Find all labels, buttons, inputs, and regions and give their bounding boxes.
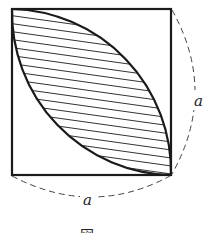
- lower-arc: [12, 9, 171, 175]
- side-label-bottom: a: [83, 191, 92, 209]
- figure-caption: 図: [80, 227, 94, 233]
- dimension-arc-right: [172, 10, 195, 174]
- square-outline: [12, 9, 171, 175]
- upper-arc: [12, 9, 171, 175]
- side-label-right: a: [194, 92, 203, 110]
- diagram-canvas: a a 図: [0, 0, 214, 233]
